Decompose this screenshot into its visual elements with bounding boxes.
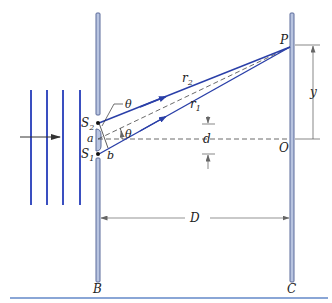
label-theta-angle: θ [125, 128, 132, 141]
label-S2: S2 [81, 116, 94, 132]
label-D: D [189, 211, 200, 225]
ray-r1-arrow [140, 117, 166, 132]
center-to-P-dashed [98, 47, 290, 139]
ray-r2-arrow [140, 97, 166, 108]
label-B: B [92, 282, 102, 296]
ray-r2 [99, 47, 290, 123]
label-d: d [203, 132, 211, 146]
theta-arc [120, 128, 122, 139]
incident-wavefronts [31, 90, 80, 205]
label-b: b [107, 149, 114, 162]
double-slit-diagram: P y O r2 r1 d S2 S1 a b θ θ D B C [0, 0, 332, 303]
label-alpha: a [87, 132, 94, 145]
label-C: C [287, 282, 296, 296]
label-S1: S1 [81, 147, 94, 163]
source-S1-dot [96, 152, 100, 156]
label-theta-top: θ [125, 98, 132, 111]
screen-C [290, 13, 294, 282]
barrier-B [96, 13, 101, 282]
label-r2: r2 [182, 71, 193, 87]
label-y: y [309, 85, 317, 99]
label-O: O [279, 141, 289, 155]
label-P: P [279, 33, 289, 47]
label-r1: r1 [190, 97, 201, 113]
